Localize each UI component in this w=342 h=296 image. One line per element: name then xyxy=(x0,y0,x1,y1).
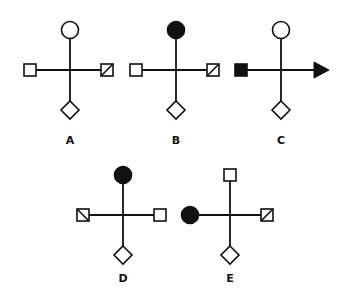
circle-open-icon xyxy=(62,22,79,39)
circle-filled-icon xyxy=(168,22,185,39)
diamond-open-icon xyxy=(167,101,185,119)
square-diagonal-up-icon xyxy=(207,64,219,76)
arrow-right-filled-icon xyxy=(314,62,329,78)
square-diagonal-down-icon xyxy=(77,209,89,221)
figure-e xyxy=(182,169,274,264)
figure-canvas: A B C D E xyxy=(0,0,342,296)
figure-a xyxy=(24,22,113,120)
figure-c-label: C xyxy=(277,134,285,147)
circle-open-icon xyxy=(273,22,290,39)
square-filled-icon xyxy=(235,64,247,76)
figure-a-label: A xyxy=(66,134,75,147)
square-diagonal-up-icon xyxy=(261,209,273,221)
figure-d-label: D xyxy=(118,272,127,285)
circle-filled-icon xyxy=(182,207,199,224)
diamond-open-icon xyxy=(272,101,290,119)
figure-b-label: B xyxy=(172,134,180,147)
figure-e-label: E xyxy=(226,272,234,285)
square-open-icon xyxy=(130,64,142,76)
square-diagonal-up-icon xyxy=(101,64,113,76)
circle-filled-icon xyxy=(115,167,132,184)
square-open-icon xyxy=(24,64,36,76)
diamond-open-icon xyxy=(221,246,239,264)
figure-d xyxy=(77,167,166,265)
figure-b xyxy=(130,22,219,120)
diamond-open-icon xyxy=(114,246,132,264)
figure-c xyxy=(235,22,329,120)
square-open-icon xyxy=(224,169,236,181)
square-open-icon xyxy=(154,209,166,221)
diamond-open-icon xyxy=(61,101,79,119)
